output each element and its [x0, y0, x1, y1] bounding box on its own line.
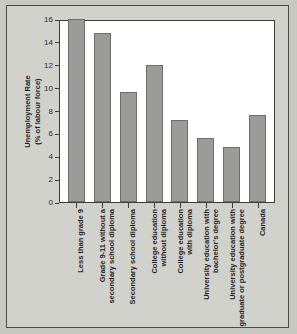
bar: [68, 19, 85, 202]
x-axis-label-line: Canada: [258, 209, 267, 236]
bar: [197, 138, 214, 202]
x-axis-label-line: Secondary school diploma: [128, 209, 137, 304]
y-axis-title-line-2: (% of labour force): [33, 20, 43, 203]
x-axis-label: University education withbachelor's degr…: [202, 209, 220, 300]
y-axis-tick-label: 10: [44, 84, 55, 92]
x-axis-tick: [115, 203, 141, 208]
bar: [249, 115, 266, 202]
x-axis-tick-mark: [102, 203, 103, 208]
x-axis-label-slot: Canada: [245, 209, 271, 329]
x-axis-tick: [245, 203, 271, 208]
x-axis-tick-mark: [128, 203, 129, 208]
x-axis-tick: [63, 203, 89, 208]
chart-figure: 0246810121416 Unemployment Rate (% of la…: [6, 5, 289, 328]
x-axis-label-slot: University education withgraduate or pos…: [219, 209, 245, 329]
x-axis-label-slot: Grade 9-11 without asecondary school dip…: [89, 209, 115, 329]
x-axis-label: College educationwith diploma: [176, 209, 194, 274]
x-axis-label-slot: College educationwith diploma: [167, 209, 193, 329]
x-axis-label-slot: University education withbachelor's degr…: [193, 209, 219, 329]
bar-slot: [167, 21, 193, 202]
bar-slot: [64, 21, 90, 202]
x-axis-label: College educationwithout diploma: [150, 209, 168, 274]
x-axis-label-line: Less than grade 9: [76, 209, 85, 273]
x-axis-tick: [141, 203, 167, 208]
x-axis-label-slot: College educationwithout diploma: [141, 209, 167, 329]
bar-slot: [219, 21, 245, 202]
x-axis-label-line: College education: [150, 209, 159, 274]
y-axis-tick-label: 2: [49, 176, 55, 184]
x-axis-ticks: [59, 203, 275, 208]
y-axis-tick-label: 8: [49, 107, 55, 115]
y-axis-tick-label: 16: [44, 16, 55, 24]
bar-slot: [193, 21, 219, 202]
x-axis-label-line: University education with: [202, 209, 211, 300]
x-axis-label-line: University education with: [228, 209, 237, 327]
y-axis-title: Unemployment Rate (% of labour force): [23, 0, 45, 20]
x-axis-label: University education withgraduate or pos…: [228, 209, 246, 327]
x-axis-tick-mark: [206, 203, 207, 208]
y-axis-title-line-1: Unemployment Rate: [23, 20, 33, 203]
x-axis-tick-mark: [232, 203, 233, 208]
x-axis-tick: [219, 203, 245, 208]
x-axis-tick-mark: [258, 203, 259, 208]
x-axis-label-slot: Less than grade 9: [63, 209, 89, 329]
x-axis-label-line: Grade 9-11 without a: [98, 209, 107, 304]
bar-slot: [141, 21, 167, 202]
bar: [120, 92, 137, 202]
x-axis-tick: [167, 203, 193, 208]
y-axis-tick-label: 12: [44, 61, 55, 69]
x-axis-tick-mark: [180, 203, 181, 208]
bar-slot: [90, 21, 116, 202]
bar: [223, 147, 240, 202]
x-axis-label: Grade 9-11 without asecondary school dip…: [98, 209, 116, 304]
y-axis-tick-label: 14: [44, 38, 55, 46]
x-axis-label: Less than grade 9: [76, 209, 85, 273]
bar-slot: [116, 21, 142, 202]
x-axis-label-line: College education: [176, 209, 185, 274]
x-axis-tick: [193, 203, 219, 208]
plot-area: [59, 20, 275, 203]
x-axis-labels: Less than grade 9Grade 9-11 without asec…: [59, 209, 275, 329]
y-axis-tick-label: 4: [49, 153, 55, 161]
bar-slot: [244, 21, 270, 202]
x-axis-tick-mark: [76, 203, 77, 208]
x-axis-tick-mark: [154, 203, 155, 208]
bar: [146, 65, 163, 202]
x-axis-label: Canada: [258, 209, 267, 236]
y-axis-tick-label: 0: [49, 199, 55, 207]
x-axis-tick: [89, 203, 115, 208]
bar: [171, 120, 188, 202]
x-axis-label: Secondary school diploma: [128, 209, 137, 304]
bar-series: [60, 21, 274, 202]
x-axis-label-slot: Secondary school diploma: [115, 209, 141, 329]
y-axis-tick-label: 6: [49, 130, 55, 138]
bar: [94, 33, 111, 202]
